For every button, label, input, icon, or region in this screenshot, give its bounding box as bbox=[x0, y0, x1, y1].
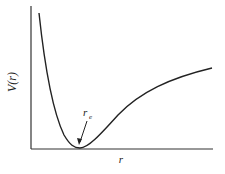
y-axis-label: V(r) bbox=[5, 72, 19, 92]
arrowhead-icon bbox=[77, 138, 82, 145]
re-label-subscript: e bbox=[89, 113, 92, 121]
potential-energy-diagram: V(r) r r e bbox=[0, 0, 225, 174]
re-label: r bbox=[83, 106, 88, 118]
x-axis-label: r bbox=[119, 153, 124, 165]
potential-curve bbox=[39, 13, 212, 148]
